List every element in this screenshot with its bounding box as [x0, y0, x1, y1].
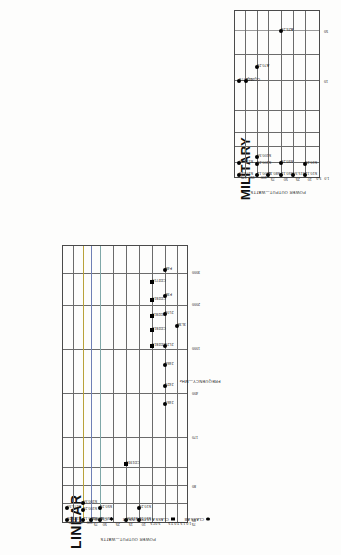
military-y-axis-label: POWER OUTPUT—WATTS	[250, 190, 306, 195]
circle-marker-icon	[207, 517, 211, 521]
point-label: CD2810	[152, 295, 166, 299]
point-label: CD2813	[152, 341, 166, 345]
point-label: F4E	[165, 265, 172, 269]
x-tick-label: 50	[324, 28, 328, 32]
point-label: S100-50	[83, 498, 97, 502]
y-tick-label: 50	[284, 176, 288, 180]
point-label: S50-28	[100, 503, 112, 507]
point-label: S100-28	[83, 505, 97, 509]
x-tick-label: 3000	[192, 269, 200, 273]
point-label: S50-12	[281, 170, 293, 174]
point-label: S10-28	[139, 503, 151, 507]
military-plot-area: S175-28 S175-50 S100-12 S100-28 S100-50 …	[234, 10, 320, 178]
y-tick-label: 50	[103, 521, 107, 525]
point-label: S80-12	[268, 170, 280, 174]
military-chart-container: MILITARY	[232, 4, 341, 200]
y-tick-label: 75	[271, 176, 275, 180]
y-tick-label: 15	[129, 521, 133, 525]
point-label: S50-28	[281, 158, 293, 162]
point-label: CD2811	[152, 311, 166, 315]
linear-plot-area: S175-28 S175-50 S100-12 S100-28 S100-50 …	[62, 245, 188, 523]
diamond-marker-icon	[109, 517, 113, 521]
point-label: 2L08	[165, 309, 173, 313]
point-label: 2467	[165, 399, 173, 403]
y-tick-label: 150	[249, 174, 255, 178]
point-label: F3E	[165, 291, 172, 295]
legend-label: CLASS AB	[185, 517, 204, 522]
military-chart: MILITARY	[232, 4, 341, 200]
x-tick-label: 400	[192, 390, 198, 394]
y-tick-label: 150	[77, 519, 83, 523]
x-tick-label: 2000	[192, 301, 200, 305]
linear-x-axis-label: FREQUENCY—MHz	[179, 379, 220, 384]
legend-item-class-a: CLASS A	[91, 517, 113, 522]
y-tick-label: 25	[296, 176, 300, 180]
point-label: S100-28	[257, 159, 271, 163]
square-marker-icon	[171, 517, 175, 521]
y-tick-label: 10	[142, 521, 146, 525]
legend-label: CLASS A	[91, 517, 108, 522]
point-label: S10-12	[305, 170, 317, 174]
y-tick-label: 100	[261, 174, 267, 178]
point-label: 2425	[165, 381, 173, 385]
point-label: 2L25	[165, 341, 173, 345]
point-label: CQ2678	[246, 76, 260, 80]
point-label: S10-28	[305, 159, 317, 163]
y-tick-label: 200	[69, 519, 75, 523]
legend-item-class-ab: CLASS AB	[185, 517, 210, 522]
point-label: 2468	[165, 360, 173, 364]
x-tick-label: 170	[192, 434, 198, 438]
y-tick-label: 10	[308, 176, 312, 180]
y-tick-label: 75	[94, 521, 98, 525]
x-tick-label: 1000	[192, 345, 200, 349]
point-label: CD2812	[152, 325, 166, 329]
point-label: A25-28	[281, 26, 293, 30]
linear-chart-legend: CLASS AB CLASS A ULTRA LINEAR CLASS A	[91, 517, 210, 522]
point-label: 3L3E	[177, 321, 186, 325]
point-label: S100-50	[257, 152, 271, 156]
x-tick-label: 80	[192, 483, 196, 487]
point-label: S175-50	[67, 503, 81, 507]
point-label: S175-50	[239, 158, 253, 162]
legend-label: CLASS A ULTRA LINEAR	[123, 517, 169, 522]
linear-chart: LINEAR	[60, 231, 220, 549]
point-label: A70-28	[257, 62, 269, 66]
datasheet-page: MILITARY	[0, 0, 341, 555]
linear-chart-container: LINEAR	[60, 231, 220, 549]
y-tick-label: 5.0	[316, 175, 321, 179]
linear-y-axis-label: POWER OUTPUT—WATTS	[100, 537, 156, 542]
point-label: CD1933	[126, 459, 140, 463]
x-tick-label: 10	[324, 78, 328, 82]
y-tick-label: 1.0	[324, 175, 329, 179]
y-tick-label: 175	[241, 174, 247, 178]
legend-item-class-a-ultra-linear: CLASS A ULTRA LINEAR	[123, 517, 175, 522]
point-label: S15-50	[293, 170, 305, 174]
point-label: CD2710	[152, 277, 166, 281]
y-tick-label: 25	[116, 521, 120, 525]
